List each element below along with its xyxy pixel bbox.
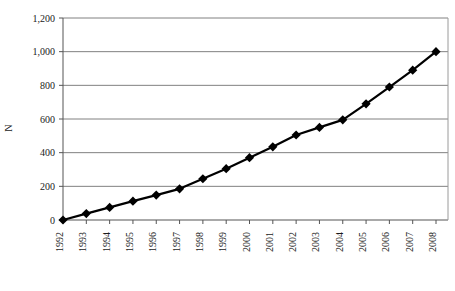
x-tick-label: 2002 — [287, 232, 298, 252]
y-tick-label: 800 — [40, 80, 55, 91]
x-tick-label: 1994 — [101, 232, 112, 252]
x-tick-label: 2000 — [241, 232, 252, 252]
y-tick-label: 0 — [50, 215, 55, 226]
x-tick-label: 1992 — [54, 232, 65, 252]
x-tick-label: 2006 — [380, 232, 391, 252]
y-tick-label: 1,200 — [33, 13, 56, 24]
x-tick-label: 1995 — [124, 232, 135, 252]
y-axis-title: N — [3, 124, 14, 131]
x-tick-label: 2007 — [404, 232, 415, 252]
x-tick-label: 2004 — [334, 232, 345, 252]
x-tick-label: 2003 — [310, 232, 321, 252]
x-tick-labels-group: 1992199319941995199619971998199920002001… — [54, 232, 438, 252]
x-tick-label: 2008 — [427, 232, 438, 252]
x-tick-label: 2001 — [264, 232, 275, 252]
y-tick-label: 600 — [40, 114, 55, 125]
chart-container: 02004006008001,0001,200 1992199319941995… — [0, 0, 455, 291]
x-tick-label: 1998 — [194, 232, 205, 252]
x-tick-label: 1993 — [77, 232, 88, 252]
x-tick-label: 1999 — [217, 232, 228, 252]
x-tick-label: 1996 — [147, 232, 158, 252]
y-tick-label: 1,000 — [33, 46, 56, 57]
y-tick-label: 200 — [40, 181, 55, 192]
x-tick-label: 2005 — [357, 232, 368, 252]
x-tick-label: 1997 — [171, 232, 182, 252]
y-tick-label: 400 — [40, 147, 55, 158]
line-chart: 02004006008001,0001,200 1992199319941995… — [0, 0, 455, 291]
